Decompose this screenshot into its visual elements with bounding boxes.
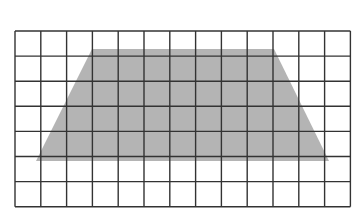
grid-figure: [0, 0, 361, 222]
